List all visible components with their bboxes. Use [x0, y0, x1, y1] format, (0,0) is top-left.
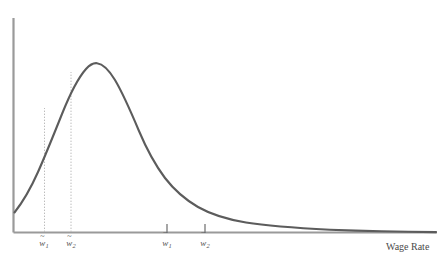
overbar-accent-icon: ¯ [163, 233, 167, 241]
wage-distribution-chart [0, 0, 438, 256]
tilde-accent-icon: ~ [40, 233, 44, 241]
w-bar-2-subscript: 2 [206, 242, 209, 249]
tick-label-w-tilde-2: ~w 2 [66, 238, 75, 248]
figure-root: ~w 1 ~w 2 ¯w 1 ¯w 2 Wage Rate [0, 0, 438, 256]
w-tilde-1-subscript: 1 [45, 242, 48, 249]
tilde-accent-icon: ~ [67, 233, 71, 241]
tick-label-w-bar-1: ¯w 1 [162, 238, 171, 248]
wage-density-curve [15, 63, 437, 232]
w-bar-1-subscript: 1 [168, 242, 171, 249]
x-axis-title: Wage Rate [386, 241, 429, 252]
overbar-accent-icon: ¯ [201, 233, 205, 241]
w-tilde-2-subscript: 2 [72, 242, 75, 249]
tick-label-w-bar-2: ¯w 2 [200, 238, 209, 248]
tick-label-w-tilde-1: ~w 1 [39, 238, 48, 248]
